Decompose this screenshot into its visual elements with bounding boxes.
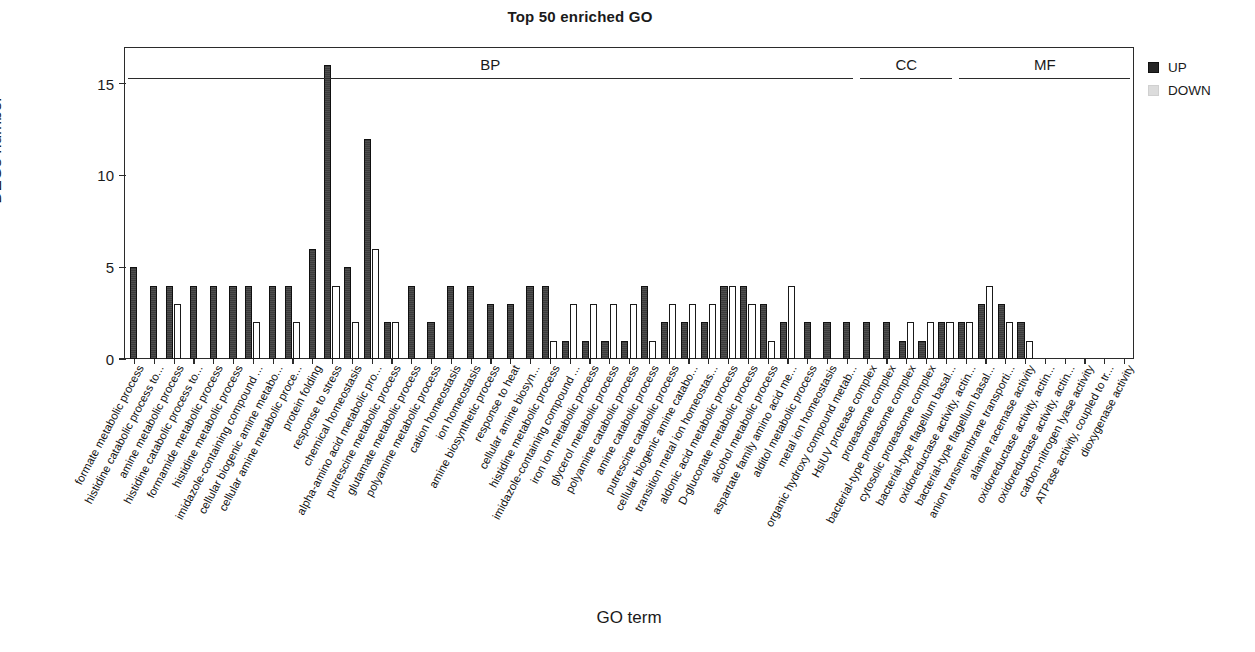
x-tick xyxy=(332,359,333,364)
ontology-group-label-cc: CC xyxy=(895,56,917,73)
x-tick xyxy=(411,359,412,364)
ontology-group-rule-cc xyxy=(860,78,952,79)
x-tick xyxy=(570,359,571,364)
x-tick xyxy=(985,359,986,364)
x-tick xyxy=(134,359,135,364)
x-tick xyxy=(787,359,788,364)
x-tick xyxy=(451,359,452,364)
x-tick xyxy=(966,359,967,364)
x-tick xyxy=(649,359,650,364)
y-tick-label: 15 xyxy=(97,75,114,92)
legend-label-up: UP xyxy=(1168,60,1187,75)
legend-label-down: DOWN xyxy=(1168,83,1211,98)
x-tick xyxy=(490,359,491,364)
x-tick xyxy=(1045,359,1046,364)
x-tick xyxy=(748,359,749,364)
x-tick xyxy=(233,359,234,364)
x-tick xyxy=(193,359,194,364)
x-tick xyxy=(352,359,353,364)
x-tick xyxy=(253,359,254,364)
legend-item-up: UP xyxy=(1148,60,1211,75)
legend: UP DOWN xyxy=(1148,60,1211,106)
x-tick xyxy=(510,359,511,364)
x-tick xyxy=(312,359,313,364)
x-tick xyxy=(154,359,155,364)
y-tick-label: 0 xyxy=(106,351,114,368)
x-tick xyxy=(827,359,828,364)
x-axis-labels: formate metabolic processhistidine catab… xyxy=(124,364,1134,604)
x-tick xyxy=(530,359,531,364)
x-tick xyxy=(867,359,868,364)
legend-item-down: DOWN xyxy=(1148,83,1211,98)
x-tick xyxy=(372,359,373,364)
ontology-group-rule-bp xyxy=(128,78,854,79)
x-tick xyxy=(1005,359,1006,364)
x-tick xyxy=(807,359,808,364)
x-tick xyxy=(609,359,610,364)
y-tick-label: 5 xyxy=(106,259,114,276)
x-tick xyxy=(669,359,670,364)
page-title: Top 50 enriched GO xyxy=(0,8,1160,25)
ontology-group-label-mf: MF xyxy=(1034,56,1056,73)
x-tick xyxy=(431,359,432,364)
x-tick xyxy=(847,359,848,364)
x-tick xyxy=(708,359,709,364)
y-axis-title: DEGs number xyxy=(0,96,6,204)
x-tick xyxy=(174,359,175,364)
ontology-group-label-bp: BP xyxy=(480,56,500,73)
x-tick xyxy=(629,359,630,364)
x-tick xyxy=(688,359,689,364)
x-tick xyxy=(273,359,274,364)
legend-swatch-up-icon xyxy=(1148,62,1159,73)
x-tick xyxy=(886,359,887,364)
x-tick xyxy=(728,359,729,364)
x-tick xyxy=(926,359,927,364)
y-tick-label: 10 xyxy=(97,167,114,184)
x-tick xyxy=(1124,359,1125,364)
x-tick xyxy=(391,359,392,364)
x-axis-title: GO term xyxy=(124,608,1134,628)
x-tick xyxy=(906,359,907,364)
x-tick xyxy=(1065,359,1066,364)
x-tick xyxy=(213,359,214,364)
x-tick xyxy=(589,359,590,364)
x-tick xyxy=(292,359,293,364)
x-tick xyxy=(1084,359,1085,364)
x-tick xyxy=(1025,359,1026,364)
ontology-group-rule-mf xyxy=(959,78,1130,79)
x-tick xyxy=(550,359,551,364)
x-tick xyxy=(768,359,769,364)
x-tick xyxy=(946,359,947,364)
x-tick xyxy=(1104,359,1105,364)
legend-swatch-down-icon xyxy=(1148,85,1159,96)
bar-up xyxy=(130,267,137,359)
x-tick xyxy=(471,359,472,364)
